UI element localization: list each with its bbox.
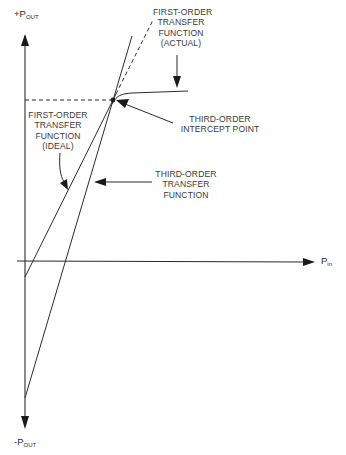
- label-first-order-actual: FIRST-ORDER TRANSFER FUNCTION (ACTUAL): [153, 7, 209, 49]
- x-axis: [17, 261, 306, 262]
- y-axis-positive-subscript: OUT: [26, 14, 39, 20]
- x-axis-subscript: in: [327, 261, 332, 267]
- y-axis-negative-prefix: -P: [14, 436, 24, 447]
- x-axis-right-arrow-icon: [303, 258, 315, 266]
- y-axis-negative-subscript: OUT: [24, 442, 37, 448]
- y-axis-positive-label: +POUT: [14, 8, 39, 20]
- pointer-first-order-actual-arrow-icon: [173, 76, 181, 88]
- y-axis-positive-prefix: +P: [14, 8, 26, 19]
- label-third-order: THIRD-ORDER TRANSFER FUNCTION: [155, 169, 217, 200]
- pointer-intercept-arrow-icon: [116, 99, 129, 108]
- pointer-first-order-ideal-arrow-icon: [60, 179, 68, 190]
- first-order-ideal-extension: [116, 20, 153, 94]
- y-axis-down-arrow-icon: [21, 416, 29, 429]
- y-axis-negative-label: -POUT: [14, 436, 36, 448]
- pointer-first-order-ideal: [60, 153, 64, 182]
- label-intercept-point: THIRD-ORDER INTERCEPT POINT: [178, 114, 262, 135]
- label-first-order-ideal: FIRST-ORDER TRANSFER FUNCTION (IDEAL): [26, 110, 90, 152]
- third-order-line: [25, 36, 132, 398]
- y-axis-up-arrow-icon: [21, 34, 29, 46]
- pointer-third-order-arrow-icon: [94, 178, 106, 186]
- diagram-canvas: [0, 0, 346, 455]
- intercept-point-marker: [111, 98, 116, 103]
- pointer-intercept: [125, 104, 173, 123]
- x-axis-label: Pin: [321, 255, 332, 267]
